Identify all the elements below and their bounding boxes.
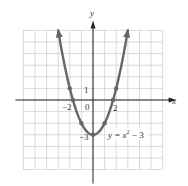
data-point: [114, 86, 118, 90]
tick-label-neg3: −3: [79, 132, 89, 142]
tick-label-0: 0: [85, 102, 90, 112]
equation-tail: − 3: [130, 130, 145, 140]
curve-arrow-icon: [56, 28, 63, 37]
curve-arrow-icon: [123, 28, 130, 37]
data-point: [111, 98, 115, 102]
data-point: [102, 121, 106, 125]
parabola-chart: y x −2 0 2 1 −3 y = x2 − 3: [0, 0, 188, 186]
equation-label: y = x2 − 3: [106, 128, 148, 140]
y-axis-label: y: [89, 8, 94, 18]
x-axis-label: x: [171, 96, 176, 106]
y-axis-arrow-icon: [91, 20, 96, 28]
axes: [15, 20, 176, 183]
equation-text: y = x2 − 3: [107, 129, 144, 140]
equation-main: y = x: [107, 130, 127, 140]
tick-label-neg2: −2: [62, 102, 72, 112]
data-point: [68, 86, 72, 90]
data-point: [79, 121, 83, 125]
data-point: [91, 133, 95, 137]
tick-label-1: 1: [84, 85, 89, 95]
tick-label-2: 2: [113, 103, 118, 113]
